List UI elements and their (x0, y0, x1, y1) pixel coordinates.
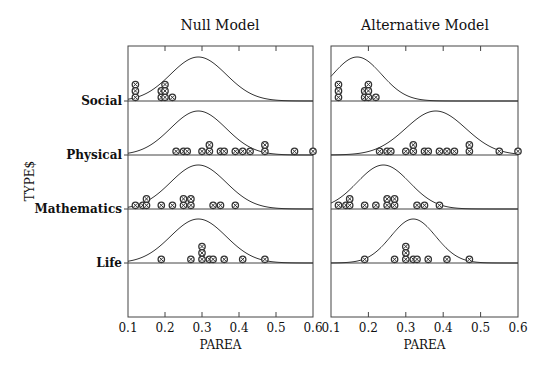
data-point (232, 148, 238, 154)
data-point (199, 243, 205, 249)
x-tick-label: 0.2 (359, 321, 378, 335)
data-point (361, 256, 367, 262)
row-label-life: Life (96, 256, 122, 270)
data-point (180, 202, 186, 208)
panel-frame (331, 46, 518, 317)
data-point (143, 196, 149, 202)
data-point (162, 94, 168, 100)
data-point (262, 142, 268, 148)
data-point (188, 196, 194, 202)
data-point (221, 256, 227, 262)
x-tick-label: 0.1 (321, 321, 340, 335)
data-point (444, 148, 450, 154)
data-point (132, 88, 138, 94)
data-point (425, 148, 431, 154)
x-tick-label: 0.3 (396, 321, 415, 335)
data-point (262, 148, 268, 154)
x-tick-label: 0.5 (471, 321, 490, 335)
data-point (335, 94, 341, 100)
panel-frame (128, 46, 313, 317)
data-point (365, 81, 371, 87)
data-point (347, 202, 353, 208)
panels-layer: Null Model0.10.20.30.40.50.6PAREASocialP… (34, 17, 527, 352)
data-point (391, 256, 397, 262)
data-point (210, 256, 216, 262)
data-point (421, 202, 427, 208)
data-point (373, 202, 379, 208)
row-label-mathematics: Mathematics (34, 202, 122, 216)
data-point (132, 94, 138, 100)
data-point (466, 256, 472, 262)
data-point (391, 202, 397, 208)
y-axis-title: TYPE$ (23, 161, 37, 201)
data-point (210, 202, 216, 208)
data-point (247, 148, 253, 154)
x-tick-label: 0.6 (303, 321, 322, 335)
data-point (162, 81, 168, 87)
row-label-physical: Physical (66, 148, 122, 162)
data-point (403, 256, 409, 262)
data-point (169, 94, 175, 100)
data-point (365, 88, 371, 94)
data-point (384, 202, 390, 208)
data-point (335, 88, 341, 94)
data-point (451, 148, 457, 154)
data-point (158, 202, 164, 208)
data-point (199, 256, 205, 262)
data-point (217, 202, 223, 208)
data-point (291, 148, 297, 154)
data-point (169, 202, 175, 208)
chart-canvas: TYPE$ Null Model0.10.20.30.40.50.6PAREAS… (0, 0, 544, 365)
data-point (410, 142, 416, 148)
x-tick-label: 0.1 (118, 321, 137, 335)
density-curve (331, 219, 518, 263)
x-tick-label: 0.4 (229, 321, 248, 335)
panel-alternative-model: Alternative Model0.10.20.30.40.50.6PAREA (321, 17, 527, 352)
data-point (444, 256, 450, 262)
data-point (199, 148, 205, 154)
x-tick-label: 0.3 (192, 321, 211, 335)
data-point (335, 202, 341, 208)
data-point (240, 256, 246, 262)
data-point (414, 256, 420, 262)
data-point (232, 202, 238, 208)
data-point (436, 202, 442, 208)
x-axis-title: PAREA (403, 338, 445, 352)
data-point (376, 148, 382, 154)
data-point (206, 142, 212, 148)
data-point (132, 202, 138, 208)
data-point (373, 94, 379, 100)
data-point (221, 148, 227, 154)
data-point (436, 148, 442, 154)
x-tick-label: 0.2 (155, 321, 174, 335)
data-point (262, 256, 268, 262)
data-point (188, 256, 194, 262)
data-point (466, 142, 472, 148)
data-point (425, 256, 431, 262)
data-point (496, 148, 502, 154)
density-curve (331, 57, 518, 101)
data-point (240, 148, 246, 154)
data-point (361, 202, 367, 208)
density-curve (128, 57, 313, 101)
data-point (384, 196, 390, 202)
density-curve (128, 219, 313, 263)
data-point (173, 148, 179, 154)
data-point (184, 148, 190, 154)
panel-title: Alternative Model (360, 17, 489, 33)
faceted-density-chart: TYPE$ Null Model0.10.20.30.40.50.6PAREAS… (0, 0, 544, 365)
data-point (515, 148, 521, 154)
data-point (403, 148, 409, 154)
data-point (310, 148, 316, 154)
data-point (403, 243, 409, 249)
data-point (199, 250, 205, 256)
data-point (188, 202, 194, 208)
x-tick-label: 0.4 (434, 321, 453, 335)
x-tick-label: 0.6 (508, 321, 527, 335)
x-tick-label: 0.5 (266, 321, 285, 335)
data-point (403, 250, 409, 256)
data-point (388, 148, 394, 154)
data-point (180, 196, 186, 202)
data-point (347, 196, 353, 202)
row-label-social: Social (81, 94, 122, 108)
